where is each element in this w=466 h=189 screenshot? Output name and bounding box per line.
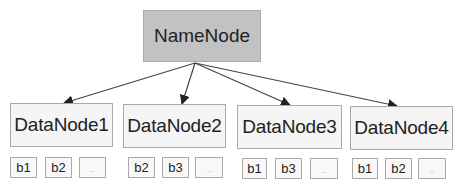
- edge-namenode-datanode2: [182, 63, 195, 104]
- block-box: b1: [242, 158, 267, 179]
- block-box: b2: [385, 158, 412, 179]
- datanode-label: DataNode1: [14, 114, 108, 136]
- block-label: ..: [430, 166, 434, 175]
- edge-namenode-datanode1: [64, 63, 195, 103]
- datanode-label: DataNode2: [127, 115, 221, 137]
- edge-namenode-datanode3: [195, 63, 290, 105]
- block-box-more: ..: [418, 158, 446, 179]
- block-label: b2: [391, 161, 405, 176]
- block-box-more: ..: [195, 157, 223, 178]
- block-box-more: ..: [79, 157, 106, 178]
- block-box: b2: [45, 157, 72, 178]
- namenode-box: NameNode: [143, 10, 261, 62]
- block-label: b1: [247, 161, 261, 176]
- hdfs-architecture-diagram: NameNode DataNode1 b1 b2 .. DataNode2 b2…: [0, 0, 466, 189]
- datanode-box-3: DataNode3: [237, 105, 342, 149]
- block-label: b3: [168, 160, 182, 175]
- datanode-box-1: DataNode1: [10, 103, 113, 147]
- edge-namenode-datanode4: [195, 63, 397, 106]
- block-box: b1: [352, 158, 378, 179]
- block-box: b1: [10, 157, 37, 178]
- datanode-label: DataNode3: [242, 116, 336, 138]
- block-box: b3: [162, 157, 189, 178]
- datanode-label: DataNode4: [354, 117, 448, 139]
- block-label: b1: [16, 160, 30, 175]
- block-label: b1: [358, 161, 372, 176]
- datanode-box-2: DataNode2: [123, 104, 226, 148]
- block-label: b2: [134, 160, 148, 175]
- block-label: ..: [322, 166, 326, 175]
- datanode-box-4: DataNode4: [350, 106, 453, 150]
- block-box: b3: [275, 158, 302, 179]
- block-box: b2: [128, 157, 155, 178]
- block-box-more: ..: [310, 158, 338, 179]
- block-label: ..: [207, 165, 211, 174]
- namenode-label: NameNode: [154, 25, 250, 47]
- block-label: b3: [281, 161, 295, 176]
- block-label: ..: [90, 165, 94, 174]
- block-label: b2: [51, 160, 65, 175]
